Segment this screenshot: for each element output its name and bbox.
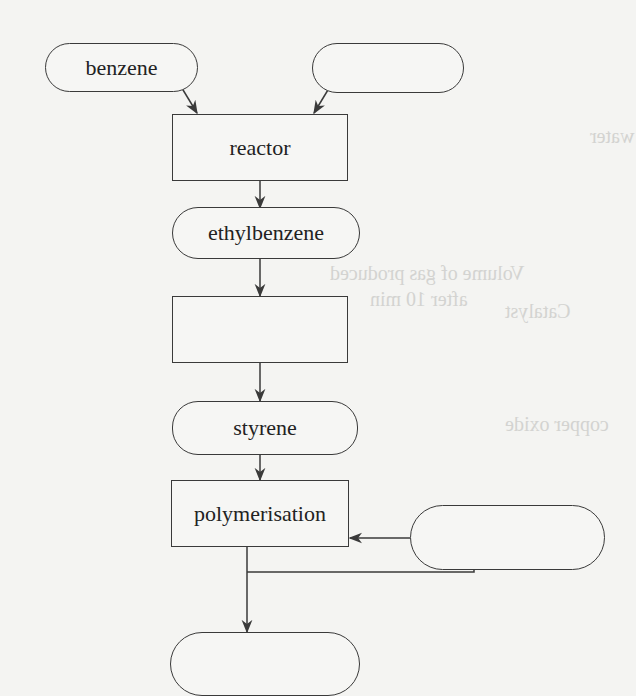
node-label: reactor	[229, 135, 290, 161]
node-input-blank	[312, 43, 464, 93]
node-label: ethylbenzene	[208, 220, 324, 246]
node-label: benzene	[85, 55, 157, 81]
node-product-blank	[170, 632, 360, 696]
node-ethylbenzene: ethylbenzene	[172, 207, 360, 259]
node-polymerisation: polymerisation	[171, 480, 349, 547]
node-reactor: reactor	[172, 114, 348, 181]
node-recycle-blank	[410, 505, 605, 570]
node-label: styrene	[233, 415, 297, 441]
node-benzene: benzene	[45, 43, 198, 92]
node-label: polymerisation	[194, 501, 326, 527]
node-styrene: styrene	[172, 401, 358, 455]
node-process-blank	[172, 296, 348, 363]
